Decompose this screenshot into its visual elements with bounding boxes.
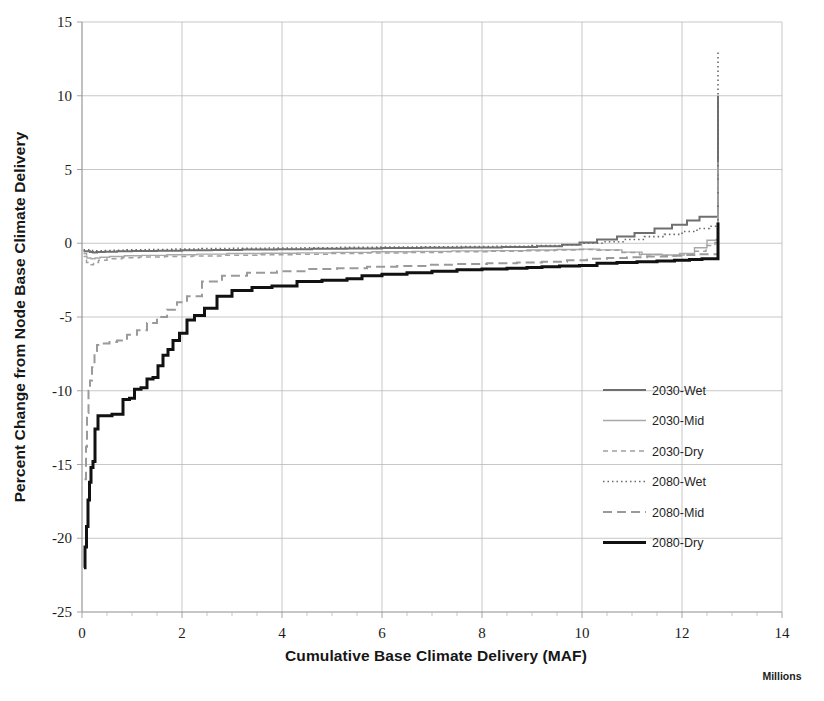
y-tick-label: -5 [60,309,73,325]
x-tick-label: 4 [278,625,286,641]
y-tick-label: 5 [65,162,73,178]
legend-label: 2030-Wet [652,384,706,398]
x-tick-label: 2 [178,625,186,641]
x-tick-label: 12 [675,625,690,641]
y-tick-label: -25 [52,604,72,620]
y-tick-label: -15 [52,457,72,473]
y-tick-label: 0 [65,235,73,251]
legend-label: 2080-Mid [652,506,704,520]
legend-label: 2080-Wet [652,475,706,489]
x-tick-label: 6 [378,625,386,641]
chart-legend: 2030-Wet2030-Mid2030-Dry2080-Wet2080-Mid… [603,384,706,551]
x-tick-label: 14 [775,625,791,641]
y-axis-title: Percent Change from Node Base Climate De… [11,131,28,502]
y-tick-label: -20 [52,530,72,546]
legend-label: 2030-Dry [652,445,704,459]
x-tick-label: 0 [78,625,86,641]
series-line-2080-mid [85,167,719,480]
y-tick-labels: -25-20-15-10-5051015 [52,14,72,620]
legend-label: 2030-Mid [652,414,704,428]
series-line-2030-mid [84,161,719,259]
tick-marks [77,22,782,618]
y-tick-label: 10 [57,88,72,104]
y-tick-label: 15 [57,14,72,30]
x-tick-label: 8 [478,625,486,641]
chart-figure: 02468101214 -25-20-15-10-5051015 2030-We… [0,0,824,701]
gridlines [82,22,782,612]
x-axis-multiplier-label: Millions [762,670,801,682]
data-series [84,52,719,568]
x-tick-label: 10 [575,625,590,641]
x-tick-labels: 02468101214 [78,625,790,641]
series-line-2080-dry [84,223,718,568]
series-line-2030-wet [84,96,719,253]
x-axis-title: Cumulative Base Climate Delivery (MAF) [285,647,587,664]
series-line-2080-wet [84,52,719,251]
y-tick-label: -10 [52,383,72,399]
chart-canvas: 02468101214 -25-20-15-10-5051015 2030-We… [0,0,824,701]
legend-label: 2080-Dry [652,536,704,550]
